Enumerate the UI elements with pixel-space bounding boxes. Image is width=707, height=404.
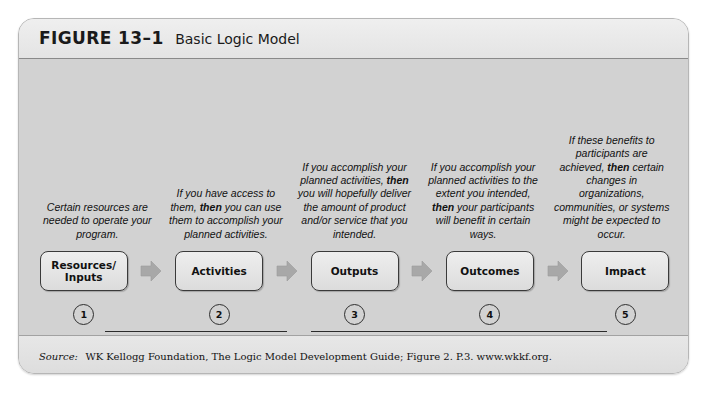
description-column-impact: If these benefits to participants are ac… (547, 134, 676, 247)
stage-number-badge: 2 (209, 304, 230, 325)
arrow-cell-1 (134, 260, 168, 282)
figure-number-label: FIGURE 13–1 (39, 28, 164, 48)
stage-box-outcomes[interactable]: Outcomes (446, 251, 534, 291)
group-rule-intended-results (311, 331, 607, 332)
figure-title: Basic Logic Model (175, 31, 300, 47)
description-text: If these benefits to participants are ac… (553, 134, 670, 241)
stage-number-cell-4: 4 (439, 304, 540, 325)
stage-box-label: Activities (191, 265, 246, 278)
group-rule-planned-work (105, 331, 287, 332)
stage-number-cell-2: 2 (168, 304, 269, 325)
arrow-cell-4 (541, 260, 575, 282)
arrow-cell-2 (270, 260, 304, 282)
right-arrow-icon (276, 260, 298, 282)
stage-box-label: Impact (605, 265, 646, 278)
source-prefix: Source: (39, 351, 78, 362)
stage-box-label: Outcomes (460, 265, 519, 278)
flow-cell-outcomes: Outcomes (439, 251, 540, 291)
stage-numbers-row: 1 2 3 4 5 (33, 302, 676, 326)
stage-box-resources[interactable]: Resources/Inputs (40, 251, 128, 291)
stage-box-outputs[interactable]: Outputs (311, 251, 399, 291)
right-arrow-icon (411, 260, 433, 282)
right-arrow-icon (140, 260, 162, 282)
stage-box-label: Resources/Inputs (51, 259, 116, 284)
flow-cell-resources: Resources/Inputs (33, 251, 134, 291)
flow-cell-activities: Activities (168, 251, 269, 291)
stage-number-badge: 1 (73, 304, 94, 325)
stage-number-badge: 5 (615, 304, 636, 325)
description-column-outcomes: If you accomplish your planned activitie… (419, 161, 548, 247)
flow-cell-outputs: Outputs (304, 251, 405, 291)
flow-row: Resources/Inputs Activities (33, 249, 676, 293)
figure-title-bar: FIGURE 13–1 Basic Logic Model (19, 19, 688, 59)
source-bar: Source: WK Kellogg Foundation, The Logic… (19, 336, 688, 374)
description-text: If you accomplish your planned activitie… (296, 161, 413, 241)
diagram-panel: Certain resources are needed to operate … (19, 59, 688, 336)
description-text: Certain resources are needed to operate … (39, 201, 156, 241)
flow-cell-impact: Impact (575, 251, 676, 291)
description-column-activities: If you have access to them, then you can… (162, 187, 291, 247)
description-text: If you accomplish your planned activitie… (425, 161, 542, 241)
stage-number-cell-1: 1 (33, 304, 134, 325)
stage-box-activities[interactable]: Activities (175, 251, 263, 291)
description-columns: Certain resources are needed to operate … (33, 59, 676, 247)
description-text: If you have access to them, then you can… (168, 187, 285, 241)
description-column-outputs: If you accomplish your planned activitie… (290, 161, 419, 247)
stage-number-cell-5: 5 (575, 304, 676, 325)
stage-number-badge: 3 (344, 304, 365, 325)
stage-box-label: Outputs (331, 265, 379, 278)
stage-box-impact[interactable]: Impact (581, 251, 669, 291)
arrow-cell-3 (405, 260, 439, 282)
figure-frame: FIGURE 13–1 Basic Logic Model Certain re… (18, 18, 689, 374)
stage-number-badge: 4 (479, 304, 500, 325)
right-arrow-icon (547, 260, 569, 282)
description-column-resources: Certain resources are needed to operate … (33, 201, 162, 247)
stage-number-cell-3: 3 (304, 304, 405, 325)
source-text: WK Kellogg Foundation, The Logic Model D… (85, 351, 551, 362)
